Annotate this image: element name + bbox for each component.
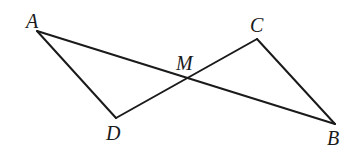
segment-dc	[116, 39, 257, 118]
label-point-b: B	[327, 127, 339, 149]
label-point-a: A	[24, 10, 39, 32]
label-point-m: M	[175, 52, 194, 74]
label-point-d: D	[105, 122, 121, 144]
geometry-diagram: A M C D B	[0, 0, 356, 157]
segment-ab	[37, 31, 335, 124]
label-point-c: C	[250, 14, 264, 36]
